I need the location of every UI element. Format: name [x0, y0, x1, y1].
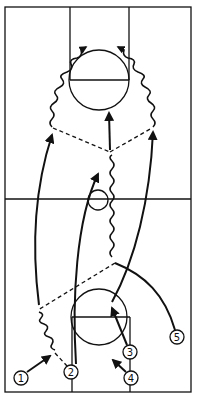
cut-arrow-right	[112, 132, 153, 302]
cut-path-player5	[115, 263, 175, 330]
pass-line	[55, 353, 67, 366]
cut-arrow-player4	[113, 360, 126, 372]
dribble-right-to-basket	[118, 47, 155, 127]
player-2: 2	[64, 365, 78, 379]
cut-arrow-center	[109, 113, 110, 150]
pass-line	[110, 128, 152, 152]
cut-arrow-left	[35, 135, 52, 305]
dribble-center	[110, 155, 114, 257]
dribble-left-lower	[39, 312, 55, 350]
dribble-left-to-basket	[50, 47, 86, 127]
svg-text:2: 2	[68, 367, 74, 378]
player-3: 3	[123, 345, 137, 359]
pass-line	[53, 128, 110, 152]
svg-text:4: 4	[128, 373, 134, 384]
players: 1 2 3 4 5	[14, 330, 184, 385]
basketball-play-diagram: 1 2 3 4 5	[0, 0, 200, 398]
cut-arrow-player1	[27, 356, 50, 372]
svg-text:1: 1	[18, 373, 24, 384]
court-lines	[5, 7, 191, 392]
player-4: 4	[124, 371, 138, 385]
svg-text:3: 3	[127, 347, 133, 358]
player-1: 1	[14, 371, 28, 385]
svg-text:5: 5	[174, 332, 180, 343]
player-5: 5	[170, 330, 184, 344]
cut-paths	[27, 113, 175, 372]
